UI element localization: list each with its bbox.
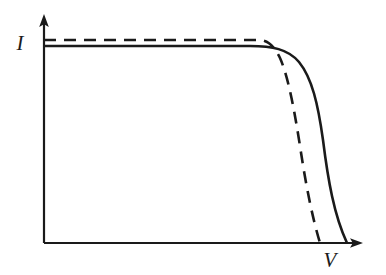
x-axis-label: V — [324, 248, 339, 272]
y-axis-label: I — [16, 31, 25, 55]
curves-group — [44, 40, 347, 243]
iv-curve-figure: I V — [0, 0, 386, 275]
axes-group — [39, 14, 363, 248]
dashed-iv-curve — [44, 40, 320, 243]
solid-iv-curve — [44, 46, 347, 243]
iv-curve-chart: I V — [0, 0, 386, 275]
